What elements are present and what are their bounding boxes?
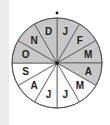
month-label: A: [30, 80, 37, 91]
month-label: M: [84, 49, 92, 60]
month-wheel: JFMAMJJASOND: [0, 0, 110, 125]
top-marker-dot: [56, 12, 59, 15]
month-label: F: [77, 35, 83, 46]
center-dot: [55, 61, 59, 65]
month-label: D: [45, 26, 52, 37]
month-label: M: [76, 80, 84, 91]
month-label: A: [85, 66, 92, 77]
month-label: J: [63, 26, 69, 37]
month-label: J: [46, 89, 52, 100]
month-label: O: [22, 49, 30, 60]
month-label: N: [30, 35, 37, 46]
month-label: S: [22, 66, 29, 77]
month-label: J: [63, 89, 69, 100]
